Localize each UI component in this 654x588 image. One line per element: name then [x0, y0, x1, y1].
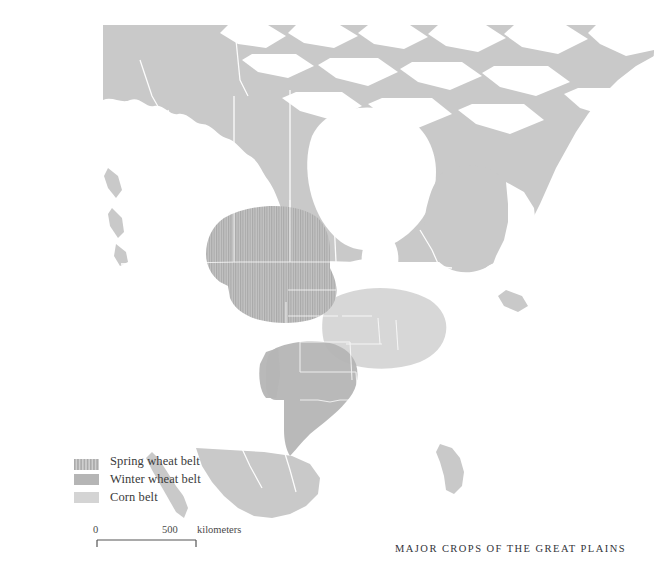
scale-max-label: 500	[162, 524, 178, 535]
map-title: MAJOR CROPS OF THE GREAT PLAINS	[395, 543, 626, 554]
map-legend: Spring wheat belt Winter wheat belt Corn…	[74, 452, 304, 506]
scale-bar-labels: 0 500 kilometers	[96, 524, 276, 538]
spring-wheat-swatch	[74, 456, 99, 467]
corn-belt-swatch	[74, 492, 99, 503]
legend-label-corn-belt: Corn belt	[110, 491, 158, 504]
scale-units-label: kilometers	[197, 524, 241, 535]
legend-item-spring-wheat: Spring wheat belt	[74, 452, 304, 470]
legend-item-winter-wheat: Winter wheat belt	[74, 470, 304, 488]
scale-bar: 0 500 kilometers	[96, 524, 276, 538]
winter-wheat-swatch	[74, 474, 99, 485]
legend-label-winter-wheat: Winter wheat belt	[110, 473, 201, 486]
legend-item-corn-belt: Corn belt	[74, 488, 304, 506]
legend-label-spring-wheat: Spring wheat belt	[110, 455, 200, 468]
map-figure: Spring wheat belt Winter wheat belt Corn…	[0, 0, 654, 588]
scale-zero-label: 0	[93, 524, 98, 535]
